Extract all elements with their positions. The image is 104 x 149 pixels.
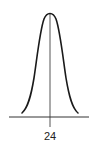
mean-label: 24 bbox=[0, 129, 100, 143]
normal-curve-figure bbox=[0, 0, 104, 149]
